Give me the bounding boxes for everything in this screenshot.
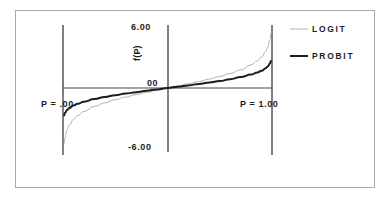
y-axis-min-tick-label: -6.00 xyxy=(128,143,152,152)
axes-group xyxy=(63,25,272,155)
legend-entry-probit: PROBIT xyxy=(312,52,354,61)
x-axis-min-annotation: P = .00 xyxy=(41,100,74,109)
y-axis-zero-tick-label: 00 xyxy=(147,79,158,88)
logit-probit-figure: 6.00 00 -6.00 f(P) P = .00 P = 1.00 LOGI… xyxy=(0,0,391,203)
x-axis-max-annotation: P = 1.00 xyxy=(240,100,278,109)
legend-swatch-group xyxy=(290,29,308,56)
y-axis-title: f(P) xyxy=(133,49,167,61)
legend-entry-logit: LOGIT xyxy=(312,25,346,34)
y-axis-max-tick-label: 6.00 xyxy=(131,23,151,32)
